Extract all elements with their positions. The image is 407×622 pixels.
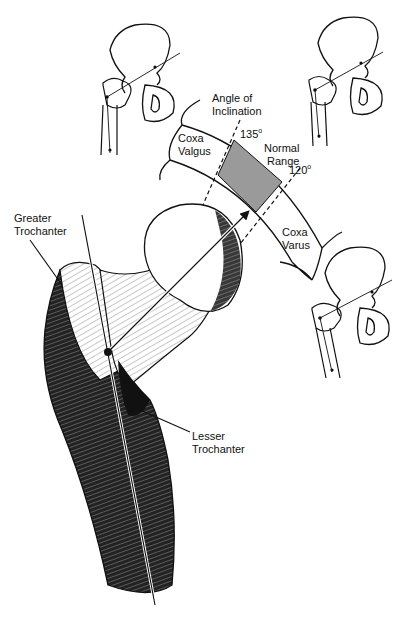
degree-symbol: o [307, 163, 311, 170]
degree-symbol: o [258, 127, 262, 134]
diagram-canvas: Angle of Inclination Coxa Valgus 135o No… [0, 0, 407, 622]
angle-title-line1: Angle of [212, 92, 262, 105]
coxa-varus-line1: Coxa [282, 226, 310, 239]
coxa-varus-line2: Varus [282, 239, 310, 252]
coxa-valgus-line1: Coxa [178, 132, 211, 145]
coxa-varus-label: Coxa Varus [282, 226, 310, 252]
angle-of-inclination-title: Angle of Inclination [212, 92, 262, 118]
lesser-trochanter-label: Lesser Trochanter [192, 430, 245, 456]
coxa-valgus-line2: Valgus [178, 145, 211, 158]
angle-135-value: 135 [240, 128, 258, 140]
lesser-trochanter-line1: Lesser [192, 430, 245, 443]
lesser-trochanter-line2: Trochanter [192, 443, 245, 456]
angle-135-label: 135o [240, 124, 262, 141]
greater-trochanter-leader [30, 240, 62, 285]
coxa-valgus-label: Coxa Valgus [178, 132, 211, 158]
coxa-varus-pelvis-inset [312, 247, 392, 378]
coxa-valgus-pelvis-inset [101, 24, 180, 155]
greater-trochanter-label: Greater Trochanter [14, 212, 67, 238]
normal-pelvis-inset [309, 17, 383, 146]
normal-range-line1: Normal [253, 142, 299, 155]
femur-inclination-diagram [0, 0, 407, 622]
angle-title-line2: Inclination [212, 105, 262, 118]
greater-trochanter-line1: Greater [14, 212, 67, 225]
axes-intersection-dot [104, 348, 112, 356]
angle-120-value: 120 [289, 164, 307, 176]
angle-120-label: 120o [289, 160, 311, 177]
greater-trochanter-line2: Trochanter [14, 225, 67, 238]
